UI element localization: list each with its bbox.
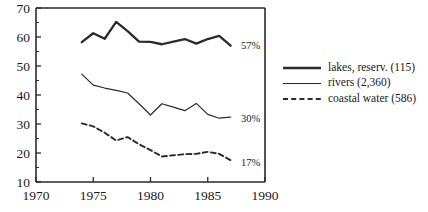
annotation-label: 57% xyxy=(241,40,261,51)
legend-label-1: rivers (2,360) xyxy=(328,76,391,89)
x-axis-tick-label: 1975 xyxy=(80,188,107,203)
annotation-label: 30% xyxy=(241,113,261,124)
chart-figure: 10203040506070 19701975198019851990 57%3… xyxy=(0,0,428,212)
x-axis-tick-label: 1985 xyxy=(194,188,221,203)
annotation-label: 17% xyxy=(241,157,261,168)
x-axis-tick-label: 1990 xyxy=(252,188,279,203)
y-axis-tick-label: 70 xyxy=(17,1,31,16)
y-axis-tick-label: 50 xyxy=(17,59,31,74)
y-axis-tick-label: 30 xyxy=(17,117,31,132)
x-axis-tick-label: 1970 xyxy=(23,188,50,203)
x-axis-tick-label: 1980 xyxy=(137,188,164,203)
y-axis-tick-label: 60 xyxy=(17,30,31,45)
line-chart: 10203040506070 19701975198019851990 57%3… xyxy=(0,0,428,212)
y-axis-tick-label: 40 xyxy=(17,88,31,103)
y-axis-tick-label: 20 xyxy=(17,146,31,161)
legend-label-2: coastal water (586) xyxy=(328,92,416,105)
legend-label-0: lakes, reserv. (115) xyxy=(328,61,415,74)
chart-background xyxy=(0,0,428,212)
